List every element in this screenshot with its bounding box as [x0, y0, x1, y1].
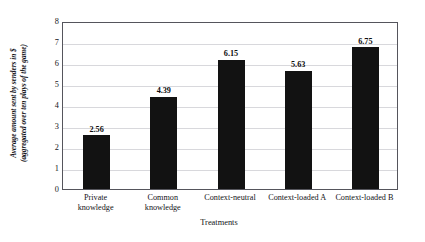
bar-value-label: 5.63	[275, 61, 321, 69]
x-axis-category-label: Context-loaded B	[328, 193, 401, 203]
bar-value-label: 4.39	[141, 87, 187, 95]
y-axis-title-text: Average amount sent by senders in $ (agg…	[9, 14, 43, 192]
y-axis-tick-label: 7	[44, 39, 59, 47]
x-axis-category-line: Context-loaded B	[328, 193, 401, 203]
y-axis-tick-label: 0	[44, 186, 59, 194]
bar-value-label: 6.15	[208, 50, 254, 58]
x-axis-category-line: knowledge	[59, 203, 132, 213]
y-axis-title-line-2: (aggregated over ten plays of the game)	[19, 14, 29, 192]
bar-value-label: 6.75	[342, 38, 388, 46]
y-axis-tick-label: 4	[44, 102, 59, 110]
bar	[218, 60, 245, 189]
plot-area: 2.564.396.155.636.75	[62, 22, 398, 190]
y-axis-tick-label: 6	[44, 60, 59, 68]
y-axis-tick-label: 3	[44, 123, 59, 131]
y-axis-tick-labels: 012345678	[44, 0, 59, 242]
plot-inner: 2.564.396.155.636.75	[63, 23, 397, 189]
y-axis-tick-label: 1	[44, 165, 59, 173]
x-axis-category-label: Privateknowledge	[59, 193, 132, 214]
y-axis-title-line-1: Average amount sent by senders in $	[9, 14, 19, 192]
bar-value-label: 2.56	[74, 126, 120, 134]
x-axis-category-label: Context-neutral	[193, 193, 266, 203]
bar	[83, 135, 110, 189]
y-axis-tick-label: 8	[44, 18, 59, 26]
y-axis-tick-label: 2	[44, 144, 59, 152]
bar-chart: Average amount sent by senders in $ (agg…	[0, 0, 425, 242]
x-axis-category-label: Commonknowledge	[126, 193, 199, 214]
bar	[352, 47, 379, 189]
y-axis-title: Average amount sent by senders in $ (agg…	[0, 0, 46, 205]
y-axis-tick-label: 5	[44, 81, 59, 89]
x-axis-category-line: Context-loaded A	[261, 193, 334, 203]
bar	[150, 97, 177, 189]
x-axis-category-line: knowledge	[126, 203, 199, 213]
x-axis-category-line: Common	[126, 193, 199, 203]
x-axis-category-line: Private	[59, 193, 132, 203]
x-axis-category-label: Context-loaded A	[261, 193, 334, 203]
bar	[285, 71, 312, 189]
x-axis-title: Treatments	[164, 218, 274, 227]
x-axis-category-line: Context-neutral	[193, 193, 266, 203]
